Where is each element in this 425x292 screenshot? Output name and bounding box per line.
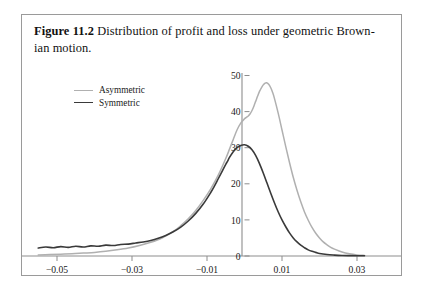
series-line-symmetric [38, 145, 364, 256]
x-tick-label: 0.01 [274, 264, 291, 275]
chart-series-group [38, 83, 364, 256]
y-tick-label: 40 [231, 106, 241, 117]
chart-axes [22, 73, 401, 256]
y-tick-label: 0 [236, 251, 241, 262]
y-axis-ticks: 01020304050 [231, 70, 250, 262]
series-line-asymmetric [38, 83, 364, 256]
y-tick-label: 20 [231, 178, 241, 189]
x-tick-label: −0.01 [196, 264, 218, 275]
x-tick-label: −0.05 [46, 264, 68, 275]
distribution-line-chart: −0.05−0.03−0.010.010.03 01020304050 [22, 15, 401, 275]
y-tick-label: 50 [231, 70, 241, 81]
figure-container: Figure 11.2 Distribution of profit and l… [21, 14, 402, 276]
x-tick-label: 0.03 [349, 264, 366, 275]
x-tick-label: −0.03 [121, 264, 143, 275]
y-tick-label: 10 [231, 215, 241, 226]
x-axis-ticks: −0.05−0.03−0.010.010.03 [46, 256, 366, 275]
